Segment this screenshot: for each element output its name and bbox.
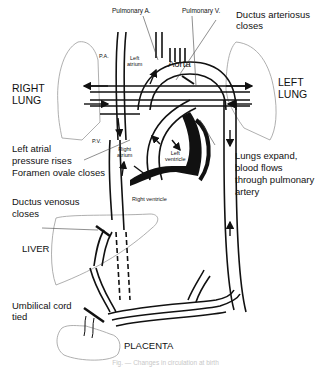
ventricle-wall bbox=[130, 112, 202, 186]
label-right-lung: RIGHT LUNG bbox=[12, 82, 45, 106]
label-lungs-expand: Lungs expand, blood flows through pulmon… bbox=[235, 150, 314, 198]
label-liver: LIVER bbox=[22, 244, 49, 255]
label-umbilical-cord: Umbilical cord tied bbox=[12, 300, 72, 323]
label-aorta: Aorta bbox=[168, 59, 191, 70]
label-ductus-arteriosus: Ductus arteriosus closes bbox=[236, 10, 310, 32]
label-right-atrium: Right atrium bbox=[117, 146, 132, 159]
label-left-lung: LEFT LUNG bbox=[278, 76, 307, 100]
label-ductus-venosus: Ductus venosus closes bbox=[12, 196, 80, 220]
label-pulmonary-artery: Pulmonary A. bbox=[112, 7, 151, 14]
label-left-ventricle: Left ventricle bbox=[165, 150, 185, 163]
label-pa: P.A. bbox=[99, 53, 109, 59]
placenta-outline bbox=[57, 326, 120, 361]
label-pulmonary-vein: Pulmonary V. bbox=[182, 7, 220, 14]
label-right-ventricle: Right ventricle bbox=[132, 196, 167, 202]
label-left-atrial-pressure: Left atrial pressure rises Foramen ovale… bbox=[12, 143, 105, 179]
ductus-venosus-closure-mark bbox=[96, 226, 110, 236]
right-lung-outline bbox=[58, 42, 100, 140]
figure-caption: Fig. — Changes in circulation at birth bbox=[0, 359, 331, 366]
label-placenta: PLACENTA bbox=[124, 341, 173, 352]
label-left-atrium: Left atrium bbox=[127, 55, 142, 68]
